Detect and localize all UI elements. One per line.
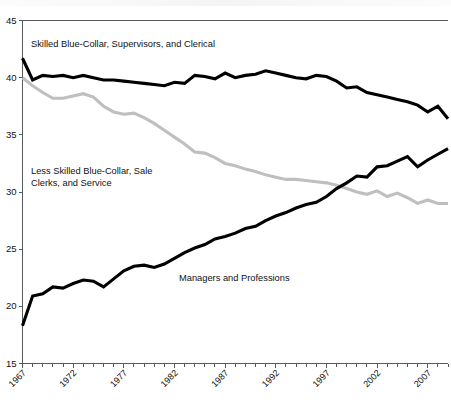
x-axis-tick-labels: 196719721977198219871992199720022007 (7, 364, 448, 390)
annotation-managers: Managers and Professions (179, 273, 290, 283)
x-tick-label: 1987 (209, 368, 230, 389)
axis-frame (23, 21, 449, 364)
x-tick-label: 2007 (412, 368, 433, 389)
x-tick-label: 1972 (57, 368, 78, 389)
y-tick-label: 25 (6, 243, 17, 254)
y-tick-label: 20 (6, 300, 17, 311)
x-tick-label: 1967 (7, 368, 28, 389)
x-tick-label: 1992 (260, 368, 281, 389)
x-tick-label: 2002 (361, 368, 382, 389)
y-tick-label: 40 (6, 72, 17, 83)
chart-series-lines (23, 58, 449, 326)
x-tick-label: 1977 (108, 368, 129, 389)
y-axis-tick-labels: 15202530354045 (6, 15, 23, 369)
annotation-skilled-blue-collar: Skilled Blue-Collar, Supervisors, and Cl… (31, 39, 215, 49)
y-tick-label: 45 (6, 15, 17, 26)
chart-axes (23, 21, 449, 364)
y-tick-label: 35 (6, 129, 17, 140)
annotation-less-skilled-line2: Clerks, and Service (31, 178, 112, 188)
series-line-0 (23, 58, 449, 119)
y-tick-label: 30 (6, 186, 17, 197)
chart-plot-area: 15202530354045 1967197219771982198719921… (0, 0, 451, 400)
x-tick-label: 1982 (159, 368, 180, 389)
y-tick-label: 15 (6, 358, 17, 369)
x-tick-label: 1997 (311, 368, 332, 389)
occupation-share-line-chart: 15202530354045 1967197219771982198719921… (0, 0, 451, 400)
annotation-less-skilled-line1: Less Skilled Blue-Collar, Sale (31, 166, 152, 176)
